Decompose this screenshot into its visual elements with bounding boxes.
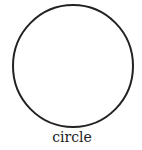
circle-shape: [13, 5, 133, 127]
shape-label: circle: [0, 129, 142, 145]
diagram-canvas: [0, 0, 142, 150]
